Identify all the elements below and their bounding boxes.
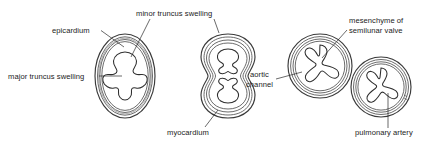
aortic-channel-lumen [305, 45, 339, 82]
label-texts: epicardium minor truncus swelling major … [8, 9, 413, 137]
truncus-arteriosus-septation-diagram: epicardium minor truncus swelling major … [0, 0, 427, 144]
label-epicardium: epicardium [52, 26, 90, 35]
panel-2-dividing-truncus [201, 34, 255, 118]
label-mesenchyme-line1: mesenchyme of [349, 16, 404, 25]
pulmonary-artery-cross-section [351, 57, 411, 117]
label-major-truncus-swelling: major truncus swelling [8, 72, 84, 81]
leader-myocardium [205, 110, 218, 127]
anatomical-figure: epicardium minor truncus swelling major … [0, 0, 427, 144]
leader-minor-truncus-a [131, 19, 150, 57]
label-aortic-channel-line2: channel [246, 80, 273, 89]
label-myocardium: myocardium [167, 128, 209, 137]
label-mesenchyme-line2: semilunar valve [349, 26, 403, 35]
label-minor-truncus-swelling: minor truncus swelling [136, 9, 212, 18]
lumen-lower-trefoil [217, 78, 238, 103]
label-pulmonary-artery: pulmonary artery [355, 128, 413, 137]
panel-3-separated-vessels [288, 34, 411, 117]
leader-minor-truncus-b [214, 19, 219, 33]
label-aortic-channel-line1: aortic [250, 70, 269, 79]
aorta-cross-section [288, 34, 352, 98]
lumen-upper-trefoil [217, 49, 238, 74]
pulmonary-artery-lumen [367, 68, 398, 102]
